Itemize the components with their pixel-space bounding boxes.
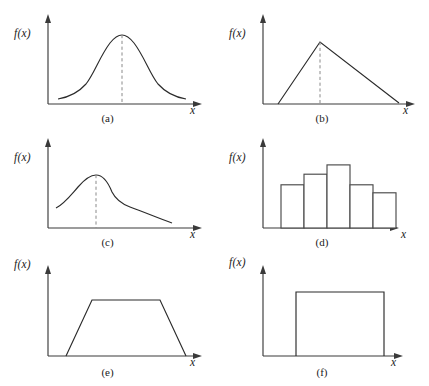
axes-b: [260, 14, 415, 107]
curve-rectangle-f: [296, 292, 384, 356]
panel-caption: (c): [0, 236, 215, 248]
y-axis-label: f(x): [14, 258, 31, 270]
axes-a: [45, 14, 202, 107]
y-axis-arrow-icon: [45, 138, 51, 147]
histogram-bar: [373, 193, 396, 228]
axes-c: [45, 138, 202, 231]
panel-b-plot: [215, 0, 429, 130]
axes-e: [45, 265, 202, 359]
y-axis-label: f(x): [14, 27, 31, 39]
curve-trapezoid-e: [66, 300, 186, 356]
y-axis-arrow-icon: [260, 14, 266, 23]
y-axis-arrow-icon: [260, 138, 266, 147]
panel-f: f(x) x (f): [215, 255, 429, 386]
panel-d: f(x) x (d): [215, 130, 429, 255]
histogram-bar: [304, 174, 327, 228]
y-axis-label: f(x): [229, 27, 246, 39]
histogram-bar: [327, 165, 350, 228]
panel-a: f(x) x (a): [0, 0, 215, 130]
panel-a-plot: [0, 0, 215, 130]
histogram-bar: [350, 185, 373, 228]
panel-caption: (e): [0, 366, 215, 378]
y-axis-label: f(x): [14, 151, 31, 163]
curve-skewed-c: [56, 175, 172, 223]
histogram-bars-d: [281, 165, 396, 228]
y-axis-arrow-icon: [45, 14, 51, 23]
y-axis-arrow-icon: [45, 265, 51, 274]
figure-grid: f(x) x (a) f(x) x (b): [0, 0, 429, 386]
panel-caption: (b): [215, 112, 429, 124]
panel-caption: (d): [215, 236, 429, 248]
curve-triangle-b: [278, 42, 399, 104]
panel-c: f(x) x (c): [0, 130, 215, 255]
panel-e: f(x) x (e): [0, 255, 215, 386]
panel-caption: (a): [0, 112, 215, 124]
axes-f: [260, 265, 403, 359]
y-axis-label: f(x): [229, 256, 246, 268]
panel-b: f(x) x (b): [215, 0, 429, 130]
y-axis-arrow-icon: [260, 265, 266, 274]
histogram-bar: [281, 185, 304, 228]
panel-caption: (f): [215, 366, 429, 378]
y-axis-label: f(x): [229, 151, 246, 163]
